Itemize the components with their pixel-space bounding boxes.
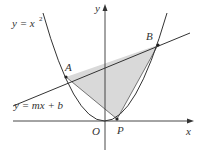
x-axis-arrow-icon bbox=[187, 119, 194, 124]
point-A-label: A bbox=[64, 61, 72, 73]
point-P bbox=[115, 117, 118, 120]
point-P-label: P bbox=[116, 124, 124, 136]
point-B-label: B bbox=[146, 30, 153, 42]
origin-label: O bbox=[92, 125, 100, 137]
curve-label-exponent: 2 bbox=[39, 15, 43, 23]
x-axis-label: x bbox=[185, 125, 191, 137]
point-A bbox=[64, 75, 67, 78]
line-label: y = mx + b bbox=[13, 99, 64, 111]
y-axis-label: y bbox=[94, 2, 100, 14]
parabola-line-diagram: y = x 2 y = mx + b y x O A B P bbox=[0, 0, 212, 154]
y-axis-arrow-icon bbox=[103, 4, 108, 11]
shaded-triangle-APB bbox=[66, 45, 158, 119]
point-B bbox=[156, 43, 159, 46]
curve-label: y = x bbox=[11, 17, 35, 29]
